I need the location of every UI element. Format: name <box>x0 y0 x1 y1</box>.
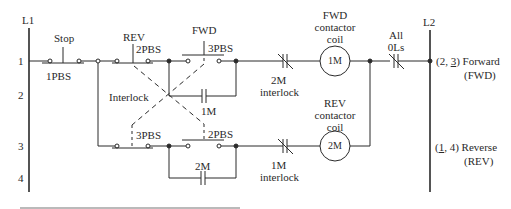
1m-seal-label: 1M <box>201 105 216 117</box>
interlock-text-rung1: interlock <box>260 86 299 98</box>
interlock-label: Interlock <box>109 91 149 103</box>
fwd-coil-caption: FWD contactor coil <box>305 9 365 45</box>
reverse-output-ref: (1, 4) Reverse <box>435 141 497 153</box>
rev-label: REV <box>123 31 145 43</box>
forward-output-abbr: (FWD) <box>464 69 496 81</box>
rev-coil-caption: REV contactor coil <box>305 97 365 133</box>
stop-pushbutton-1pbs <box>42 47 84 63</box>
2m-coil-label: 2M <box>325 140 345 152</box>
1m-seal-in-contact <box>169 61 236 103</box>
1m-coil-label: 1M <box>325 55 345 67</box>
row-number-2: 2 <box>18 89 24 101</box>
2pbs-label-rung1: 2PBS <box>136 43 161 55</box>
1m-interlock-label: 1M <box>271 159 286 171</box>
reverse-output-abbr: (REV) <box>464 155 493 167</box>
fwd-label: FWD <box>192 24 216 36</box>
3pbs-label-rung3: 3PBS <box>136 129 161 141</box>
stop-label: Stop <box>54 32 74 44</box>
1pbs-label: 1PBS <box>46 70 71 82</box>
forward-output-ref: (2, 3) Forward <box>436 55 500 67</box>
ladder-diagram <box>0 0 511 209</box>
2pbs-label-rung3: 2PBS <box>208 128 233 140</box>
row-number-4: 4 <box>18 172 24 184</box>
l1-label: L1 <box>22 14 34 26</box>
overload-caption: All 0Ls <box>381 29 411 53</box>
l2-label: L2 <box>423 16 435 28</box>
3pbs-label-rung1: 3PBS <box>208 42 233 54</box>
row-number-1: 1 <box>18 55 24 67</box>
2m-interlock-label: 2M <box>271 74 286 86</box>
row-number-3: 3 <box>18 140 24 152</box>
2m-seal-label: 2M <box>195 160 210 172</box>
interlock-text-rung3: interlock <box>260 171 299 183</box>
